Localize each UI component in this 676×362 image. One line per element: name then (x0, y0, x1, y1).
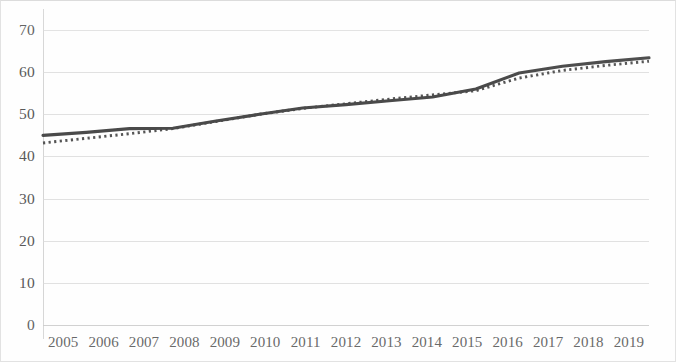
x-tick-label-2008: 2008 (164, 335, 204, 350)
x-tick-label-2011: 2011 (285, 335, 325, 350)
x-tick-label-2012: 2012 (326, 335, 366, 350)
y-tick-label-70: 70 (1, 22, 35, 38)
x-tick-label-2014: 2014 (407, 335, 447, 350)
x-tick-label-2017: 2017 (528, 335, 568, 350)
y-tick-label-40: 40 (1, 149, 35, 165)
gridline-0 (43, 325, 649, 326)
x-tick-label-2016: 2016 (487, 335, 527, 350)
y-tick-label-50: 50 (1, 107, 35, 123)
y-tick-label-60: 60 (1, 64, 35, 80)
x-axis-tick-labels: 2005200620072008200920102011201220132014… (43, 335, 649, 359)
y-tick-label-30: 30 (1, 191, 35, 207)
y-tick-label-20: 20 (1, 233, 35, 249)
x-tick-label-2005: 2005 (43, 335, 83, 350)
line-chart-figure: 010203040506070 200520062007200820092010… (0, 0, 676, 362)
x-tick-label-2006: 2006 (83, 335, 123, 350)
dotted-line-series (43, 61, 649, 143)
y-axis-tick-labels: 010203040506070 (1, 1, 41, 362)
x-tick-label-2007: 2007 (124, 335, 164, 350)
y-tick-label-0: 0 (1, 317, 35, 333)
x-tick-label-2015: 2015 (447, 335, 487, 350)
x-tick-label-2010: 2010 (245, 335, 285, 350)
x-tick-label-2019: 2019 (609, 335, 649, 350)
plot-area (43, 30, 649, 325)
solid-line-series (43, 58, 649, 136)
x-tick-label-2009: 2009 (205, 335, 245, 350)
series-group (43, 30, 649, 325)
x-tick-label-2013: 2013 (366, 335, 406, 350)
x-tick-label-2018: 2018 (568, 335, 608, 350)
y-tick-label-10: 10 (1, 275, 35, 291)
